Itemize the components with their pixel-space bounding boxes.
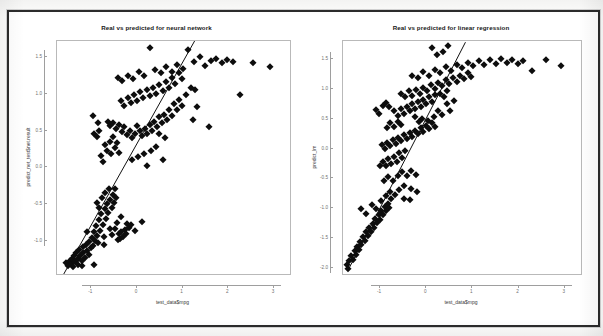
scatter-point bbox=[119, 77, 127, 85]
x-axis-tick-label: 2 bbox=[516, 289, 519, 294]
scatter-point bbox=[89, 112, 97, 120]
y-axis-tick-label: 1.0 bbox=[315, 85, 328, 90]
y-axis-tick bbox=[330, 148, 333, 149]
scatter-point bbox=[139, 218, 147, 226]
y-axis-tick-label: 1.5 bbox=[315, 55, 328, 60]
scatter-point bbox=[78, 262, 86, 270]
scatter-point bbox=[401, 93, 409, 101]
scatter-point bbox=[190, 58, 198, 66]
scatter-point bbox=[100, 242, 108, 250]
scatter-point bbox=[168, 68, 176, 76]
y-axis-tick-label: 1.0 bbox=[29, 90, 42, 95]
scatter-point bbox=[83, 228, 91, 236]
scatter-point bbox=[436, 69, 444, 77]
x-axis-tick bbox=[136, 285, 137, 288]
y-axis-tick-label: -1.5 bbox=[315, 235, 328, 240]
x-axis-title-linear-regression: test_data$mpg bbox=[444, 299, 477, 305]
chart-title-neural-network: Real vs predicted for neural network bbox=[9, 24, 304, 31]
plot-area-linear-regression bbox=[342, 40, 582, 275]
y-axis-tick bbox=[44, 130, 47, 131]
y-axis-tick-label: -0.5 bbox=[315, 175, 328, 180]
scatter-point bbox=[205, 123, 213, 131]
scatter-point bbox=[428, 44, 436, 52]
scatter-point bbox=[470, 62, 478, 70]
y-axis-tick-label: -0.5 bbox=[29, 201, 42, 206]
x-axis-tick-label: 1 bbox=[470, 289, 473, 294]
y-axis-tick bbox=[330, 58, 333, 59]
scatter-point bbox=[196, 53, 204, 61]
scatter-point bbox=[557, 62, 565, 70]
scatter-point bbox=[344, 265, 352, 273]
scatter-point bbox=[425, 72, 433, 80]
x-axis-tick-label: 1 bbox=[180, 289, 183, 294]
y-axis-title-neural-network: predict_net_test$net.result bbox=[25, 127, 31, 186]
y-axis-title-linear-regression: predict_lm bbox=[311, 145, 317, 168]
y-axis-line bbox=[330, 52, 331, 273]
y-axis-line bbox=[44, 50, 45, 246]
x-axis-tick bbox=[518, 285, 519, 288]
x-axis-tick-label: 0 bbox=[424, 289, 427, 294]
x-axis-tick-label: 0 bbox=[135, 289, 138, 294]
y-axis-tick bbox=[330, 237, 333, 238]
y-axis-tick bbox=[44, 56, 47, 57]
scatter-point bbox=[543, 56, 551, 64]
x-axis-tick bbox=[182, 285, 183, 288]
scatter-point bbox=[129, 75, 137, 83]
x-axis-tick-label: -1 bbox=[88, 289, 92, 294]
scatter-point bbox=[468, 73, 476, 81]
scatter-point bbox=[159, 156, 167, 164]
x-axis-tick bbox=[379, 285, 380, 288]
y-axis-tick-label: -2.0 bbox=[315, 265, 328, 270]
scatter-point bbox=[250, 59, 258, 67]
y-axis-tick bbox=[44, 166, 47, 167]
x-axis-title-neural-network: test_data$mpg bbox=[156, 299, 189, 305]
scatter-point bbox=[193, 103, 201, 111]
scatter-point bbox=[94, 120, 102, 128]
scatter-point bbox=[178, 75, 186, 83]
scatter-point bbox=[362, 210, 370, 218]
scatter-point bbox=[529, 67, 537, 75]
scatter-point bbox=[447, 67, 455, 75]
x-axis-tick-label: 3 bbox=[272, 289, 275, 294]
x-axis-tick-label: -1 bbox=[377, 289, 381, 294]
scatter-point bbox=[157, 70, 165, 78]
y-axis-tick bbox=[330, 267, 333, 268]
x-axis-tick bbox=[273, 285, 274, 288]
scatter-point bbox=[172, 80, 180, 88]
scatter-point bbox=[182, 92, 190, 100]
y-axis-tick bbox=[330, 88, 333, 89]
x-axis-tick bbox=[90, 285, 91, 288]
scatter-point bbox=[140, 72, 148, 80]
scatter-point bbox=[445, 42, 453, 50]
scatter-points-linear-regression bbox=[343, 41, 581, 274]
chart-panel-linear-regression: Real vs predicted for linear regression … bbox=[304, 12, 598, 325]
scatter-point bbox=[184, 46, 192, 54]
y-axis-tick-label: 0.5 bbox=[315, 115, 328, 120]
plot-area-neural-network bbox=[56, 40, 291, 275]
scatter-point bbox=[236, 92, 244, 100]
scatter-point bbox=[189, 116, 197, 124]
x-axis-tick-label: 2 bbox=[226, 289, 229, 294]
y-axis-tick bbox=[330, 207, 333, 208]
scatter-point bbox=[385, 204, 393, 212]
chart-panel-neural-network: Real vs predicted for neural network -10… bbox=[9, 12, 304, 325]
scatter-point bbox=[143, 162, 151, 170]
x-axis-tick bbox=[227, 285, 228, 288]
scatter-point bbox=[202, 62, 210, 70]
y-axis-tick-label: 1.5 bbox=[29, 54, 42, 59]
scatter-point bbox=[267, 64, 275, 72]
scatter-point bbox=[412, 171, 420, 179]
y-axis-tick-label: -1.0 bbox=[315, 205, 328, 210]
scatter-points-neural-network bbox=[57, 41, 290, 274]
r-graphics-device-frame: Real vs predicted for neural network -10… bbox=[7, 10, 600, 327]
scatter-point bbox=[492, 60, 500, 68]
y-axis-tick-label: -1.0 bbox=[29, 237, 42, 242]
scatter-point bbox=[446, 108, 454, 116]
y-axis-tick bbox=[44, 240, 47, 241]
scatter-point bbox=[90, 261, 98, 269]
scatter-point bbox=[481, 61, 489, 69]
scatter-point bbox=[146, 45, 154, 53]
chart-title-linear-regression: Real vs predicted for linear regression bbox=[304, 24, 598, 31]
y-axis-tick bbox=[44, 93, 47, 94]
scatter-point bbox=[107, 150, 115, 158]
